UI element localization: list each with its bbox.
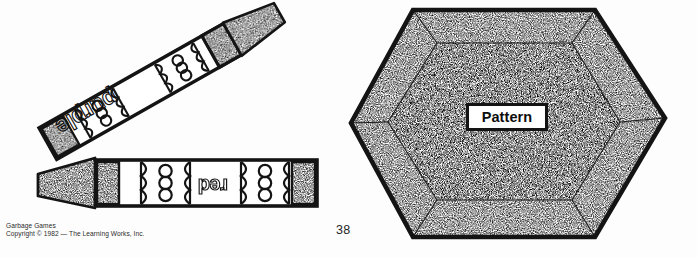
illustration-artwork — [0, 0, 697, 257]
footer-credit: Garbage Games Copyright © 1982 — The Lea… — [6, 222, 145, 238]
crayon-purple-group — [35, 0, 302, 169]
page-number: 38 — [336, 223, 351, 237]
footer-title-line: Garbage Games — [6, 222, 145, 230]
pattern-label-text: Pattern — [482, 110, 533, 125]
footer-copyright-line: Copyright © 1982 — The Learning Works, I… — [6, 230, 145, 238]
worksheet-page: Pattern purple red 38 Garbage Games Copy… — [0, 0, 697, 257]
crayon-red-group — [32, 152, 320, 214]
crayon-red-label: red — [198, 176, 228, 196]
pattern-label-box: Pattern — [466, 103, 548, 131]
